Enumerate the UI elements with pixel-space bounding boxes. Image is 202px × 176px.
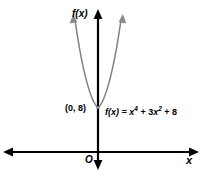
- y-axis-label: f(x): [72, 9, 88, 19]
- origin-label: O: [85, 155, 93, 165]
- vertex-point-marker: [96, 106, 99, 109]
- vertex-coordinate-label: (0, 8): [65, 104, 86, 113]
- y-axis-bottom-arrow-icon: [94, 160, 103, 170]
- graph-canvas: [0, 0, 202, 176]
- y-axis-top-arrow-icon: [94, 9, 103, 19]
- function-equation-label: f(x) = x4 + 3x2 + 8: [105, 106, 177, 117]
- equation-prefix: f(x) =: [105, 107, 129, 117]
- x-axis-label: x: [186, 155, 192, 166]
- function-graph-figure: f(x) x O (0, 8) f(x) = x4 + 3x2 + 8: [0, 0, 202, 176]
- equation-operator-1: +: [138, 107, 148, 117]
- equation-constant: 8: [172, 107, 177, 117]
- equation-operator-2: +: [162, 107, 172, 117]
- curve-right-arrow-icon: [119, 14, 127, 23]
- x-axis-left-arrow-icon: [3, 148, 13, 157]
